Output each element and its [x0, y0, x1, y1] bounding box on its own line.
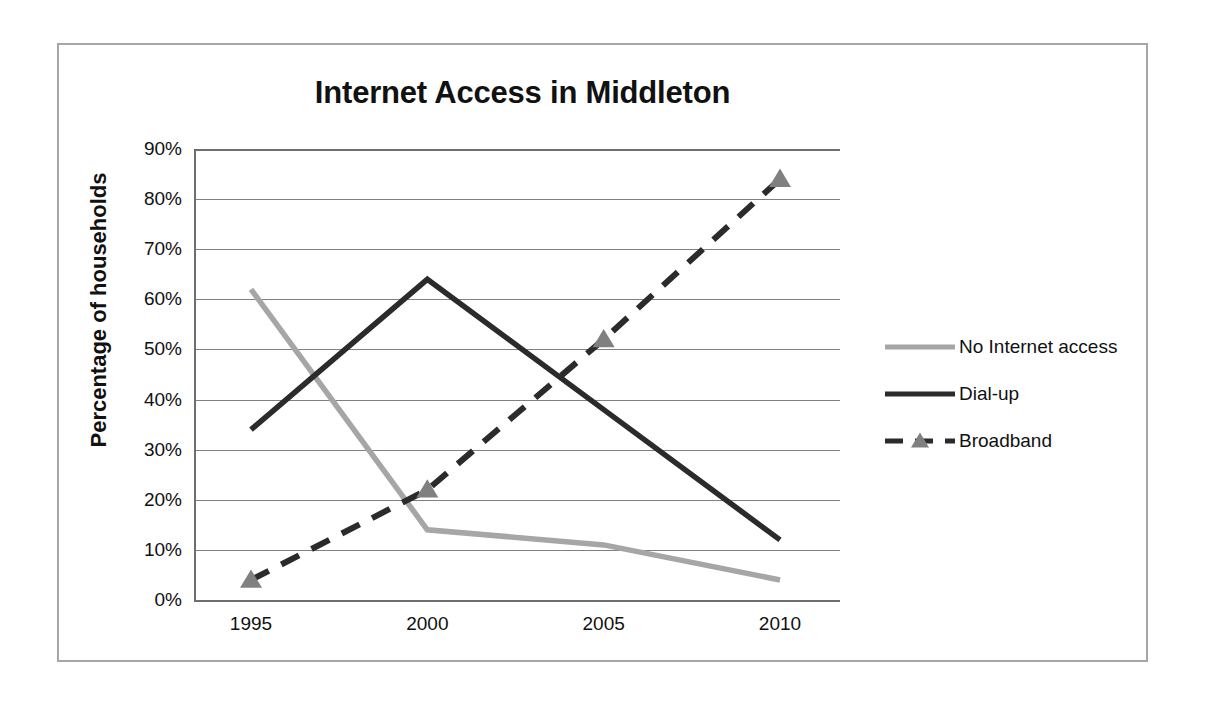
y-tick-label: 0% [104, 590, 182, 609]
data-point-marker [593, 329, 615, 347]
y-tick-label: 90% [104, 139, 182, 158]
x-tick-label: 2000 [367, 613, 487, 635]
x-tick-label: 2005 [544, 613, 664, 635]
legend-item[interactable]: No Internet access [885, 323, 1135, 370]
y-tick-label: 50% [104, 339, 182, 358]
y-tick-label: 70% [104, 239, 182, 258]
y-tick-label: 80% [104, 189, 182, 208]
series-line-dial-up [251, 279, 780, 540]
legend-label: No Internet access [955, 336, 1117, 358]
legend-item[interactable]: Dial-up [885, 370, 1135, 417]
chart-legend: No Internet accessDial-upBroadband [885, 323, 1135, 464]
legend-swatch-dial-up [885, 383, 955, 405]
x-axis-tick-labels: 1995200020052010 [194, 613, 840, 643]
y-axis-tick-labels: 0%10%20%30%40%50%60%70%80%90% [104, 149, 182, 600]
legend-label: Dial-up [955, 383, 1019, 405]
y-tick-label: 10% [104, 540, 182, 559]
y-tick-label: 30% [104, 440, 182, 459]
data-point-marker [769, 169, 791, 187]
chart-frame: Internet Access in Middleton Percentage … [57, 43, 1148, 662]
series-lines [194, 149, 840, 600]
legend-swatch-broadband [885, 430, 955, 452]
gridline-0 [194, 600, 840, 602]
plot-area [194, 149, 840, 600]
y-tick-label: 60% [104, 289, 182, 308]
y-tick-label: 20% [104, 490, 182, 509]
x-tick-label: 1995 [191, 613, 311, 635]
legend-swatch-no-internet-access [885, 336, 955, 358]
series-line-broadband [251, 179, 780, 580]
y-tick-label: 40% [104, 390, 182, 409]
legend-label: Broadband [955, 430, 1052, 452]
legend-item[interactable]: Broadband [885, 417, 1135, 464]
series-line-no-internet-access [251, 289, 780, 580]
x-tick-label: 2010 [720, 613, 840, 635]
chart-title: Internet Access in Middleton [59, 75, 1146, 111]
